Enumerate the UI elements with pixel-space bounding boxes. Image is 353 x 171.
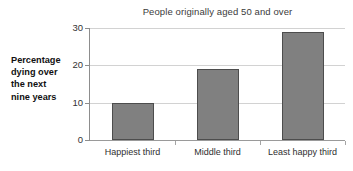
- y-tick-label-wrap-20: 20: [55, 60, 83, 70]
- y-tick-mark-20: [85, 65, 90, 66]
- category-label-least-happy-third: Least happy third: [260, 147, 345, 157]
- y-tick-mark-10: [85, 103, 90, 104]
- gridline-30: [90, 28, 345, 29]
- category-separator-tick-1: [175, 141, 176, 145]
- y-tick-label-10: 10: [57, 98, 83, 108]
- y-axis-line: [89, 28, 90, 141]
- y-tick-mark-0: [85, 140, 90, 141]
- bar-least-happy-third: [282, 32, 324, 140]
- x-axis-line: [90, 140, 345, 141]
- y-tick-label-wrap-0: 0: [55, 135, 83, 145]
- y-tick-label-20: 20: [57, 60, 83, 70]
- category-label-happiest-third: Happiest third: [90, 147, 175, 157]
- bar-happiest-third: [112, 103, 154, 140]
- bar-chart-figure: People originally aged 50 and over Perce…: [0, 0, 353, 171]
- category-separator-tick-end: [345, 141, 346, 145]
- plot-area: [90, 28, 345, 140]
- y-tick-label-30: 30: [57, 23, 83, 33]
- bar-middle-third: [197, 69, 239, 140]
- y-tick-label-0: 0: [57, 135, 83, 145]
- y-tick-mark-30: [85, 28, 90, 29]
- y-tick-label-wrap-30: 30: [55, 23, 83, 33]
- y-tick-label-wrap-10: 10: [55, 98, 83, 108]
- chart-title: People originally aged 50 and over: [90, 6, 345, 17]
- y-axis-title-line-3: the next: [11, 78, 83, 90]
- category-label-middle-third: Middle third: [175, 147, 260, 157]
- category-separator-tick-2: [260, 141, 261, 145]
